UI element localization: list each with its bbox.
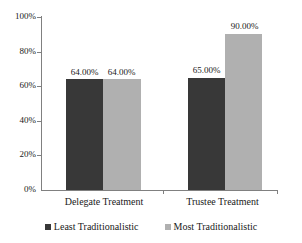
chart-legend: Least Traditionalistic Most Traditionali… — [0, 219, 302, 235]
x-axis-category-label-trustee: Trustee Treatment — [165, 196, 280, 208]
bar-trustee-most-traditionalistic[interactable] — [225, 34, 262, 190]
legend-swatch-icon — [45, 224, 51, 230]
legend-item-most-traditionalistic[interactable]: Most Traditionalistic — [165, 221, 258, 233]
legend-swatch-icon — [165, 224, 171, 230]
x-axis-line — [41, 190, 278, 191]
bars-layer — [0, 17, 302, 190]
bar-trustee-least-traditionalistic[interactable] — [188, 78, 225, 191]
bar-delegate-least-traditionalistic[interactable] — [66, 79, 103, 190]
legend-item-label: Most Traditionalistic — [174, 221, 258, 233]
data-label-trustee-most: 90.00% — [222, 22, 267, 31]
x-axis-end-tick — [277, 190, 278, 194]
data-label-trustee-least: 65.00% — [184, 66, 229, 75]
plot-area: 100% 80% 60% 40% 20% 0% — [0, 0, 302, 210]
x-axis-category-tick — [163, 190, 164, 194]
x-axis-category-label-delegate: Delegate Treatment — [44, 196, 164, 208]
legend-item-label: Least Traditionalistic — [54, 221, 139, 233]
legend-item-least-traditionalistic[interactable]: Least Traditionalistic — [45, 221, 139, 233]
bar-chart: 100% 80% 60% 40% 20% 0% — [0, 0, 302, 243]
data-label-delegate-most: 64.00% — [99, 68, 144, 77]
bar-delegate-most-traditionalistic[interactable] — [103, 79, 141, 190]
